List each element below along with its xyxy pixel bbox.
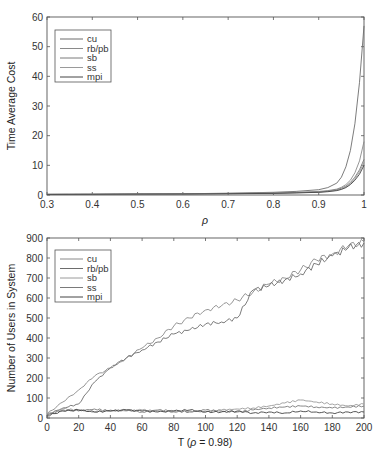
users-vs-time-chart: 020406080100120140160180200 010020030040… [5, 233, 373, 449]
x-tick-label: 0.8 [266, 199, 280, 210]
x-tick-label: 0.9 [312, 199, 326, 210]
x-tick-label: 40 [105, 422, 117, 433]
x-tick-label: 60 [137, 422, 149, 433]
x-tick-label: 0.3 [40, 199, 54, 210]
x-tick-label: 120 [229, 422, 246, 433]
y-tick-label: 900 [26, 233, 43, 244]
x-tick-label: 160 [292, 422, 309, 433]
x-tick-label: 140 [261, 422, 278, 433]
top-legend: curb/pbsbssmpi [55, 30, 111, 82]
x-tick-label: 0.5 [131, 199, 145, 210]
y-tick-label: 30 [32, 101, 44, 112]
y-tick-label: 400 [26, 333, 43, 344]
legend-label: mpi [87, 71, 102, 82]
y-tick-label: 20 [32, 130, 44, 141]
x-tick-label: 100 [197, 422, 214, 433]
y-tick-label: 700 [26, 273, 43, 284]
x-tick-label: 0 [44, 422, 50, 433]
y-tick-label: 600 [26, 293, 43, 304]
y-tick-label: 50 [32, 41, 44, 52]
x-tick-label: 200 [356, 422, 373, 433]
top-y-axis-label: Time Average Cost [5, 62, 17, 151]
x-tick-label: 0.6 [176, 199, 190, 210]
series-line-rb-pb [47, 142, 364, 195]
bottom-y-axis-label: Number of Users in System [5, 264, 17, 393]
y-tick-label: 100 [26, 393, 43, 404]
series-line-sb [47, 159, 364, 194]
y-tick-label: 40 [32, 71, 44, 82]
y-tick-label: 200 [26, 373, 43, 384]
bottom-x-axis-label: T (ρ = 0.98) [178, 436, 233, 448]
top-x-axis-label: ρ [201, 214, 208, 226]
y-tick-label: 500 [26, 313, 43, 324]
x-tick-label: 0.7 [221, 199, 235, 210]
y-tick-label: 0 [37, 413, 43, 424]
x-tick-label: 80 [168, 422, 180, 433]
y-tick-label: 60 [32, 12, 44, 23]
figure: 0.30.40.50.60.70.80.91 0102030405060 ρ T… [0, 0, 381, 459]
series-line-ss [47, 406, 364, 415]
cost-vs-rho-chart: 0.30.40.50.60.70.80.91 0102030405060 ρ T… [5, 12, 367, 227]
x-tick-label: 20 [73, 422, 85, 433]
x-tick-label: 1 [361, 199, 367, 210]
bottom-legend-box [55, 250, 111, 302]
y-tick-label: 800 [26, 253, 43, 264]
bottom-legend: curb/pbsbssmpi [55, 250, 111, 302]
y-tick-label: 300 [26, 353, 43, 364]
x-tick-label: 0.4 [85, 199, 99, 210]
y-tick-label: 10 [32, 160, 44, 171]
x-tick-label: 180 [324, 422, 341, 433]
y-tick-label: 0 [37, 190, 43, 201]
legend-label: mpi [87, 291, 102, 302]
top-legend-box [55, 30, 111, 82]
